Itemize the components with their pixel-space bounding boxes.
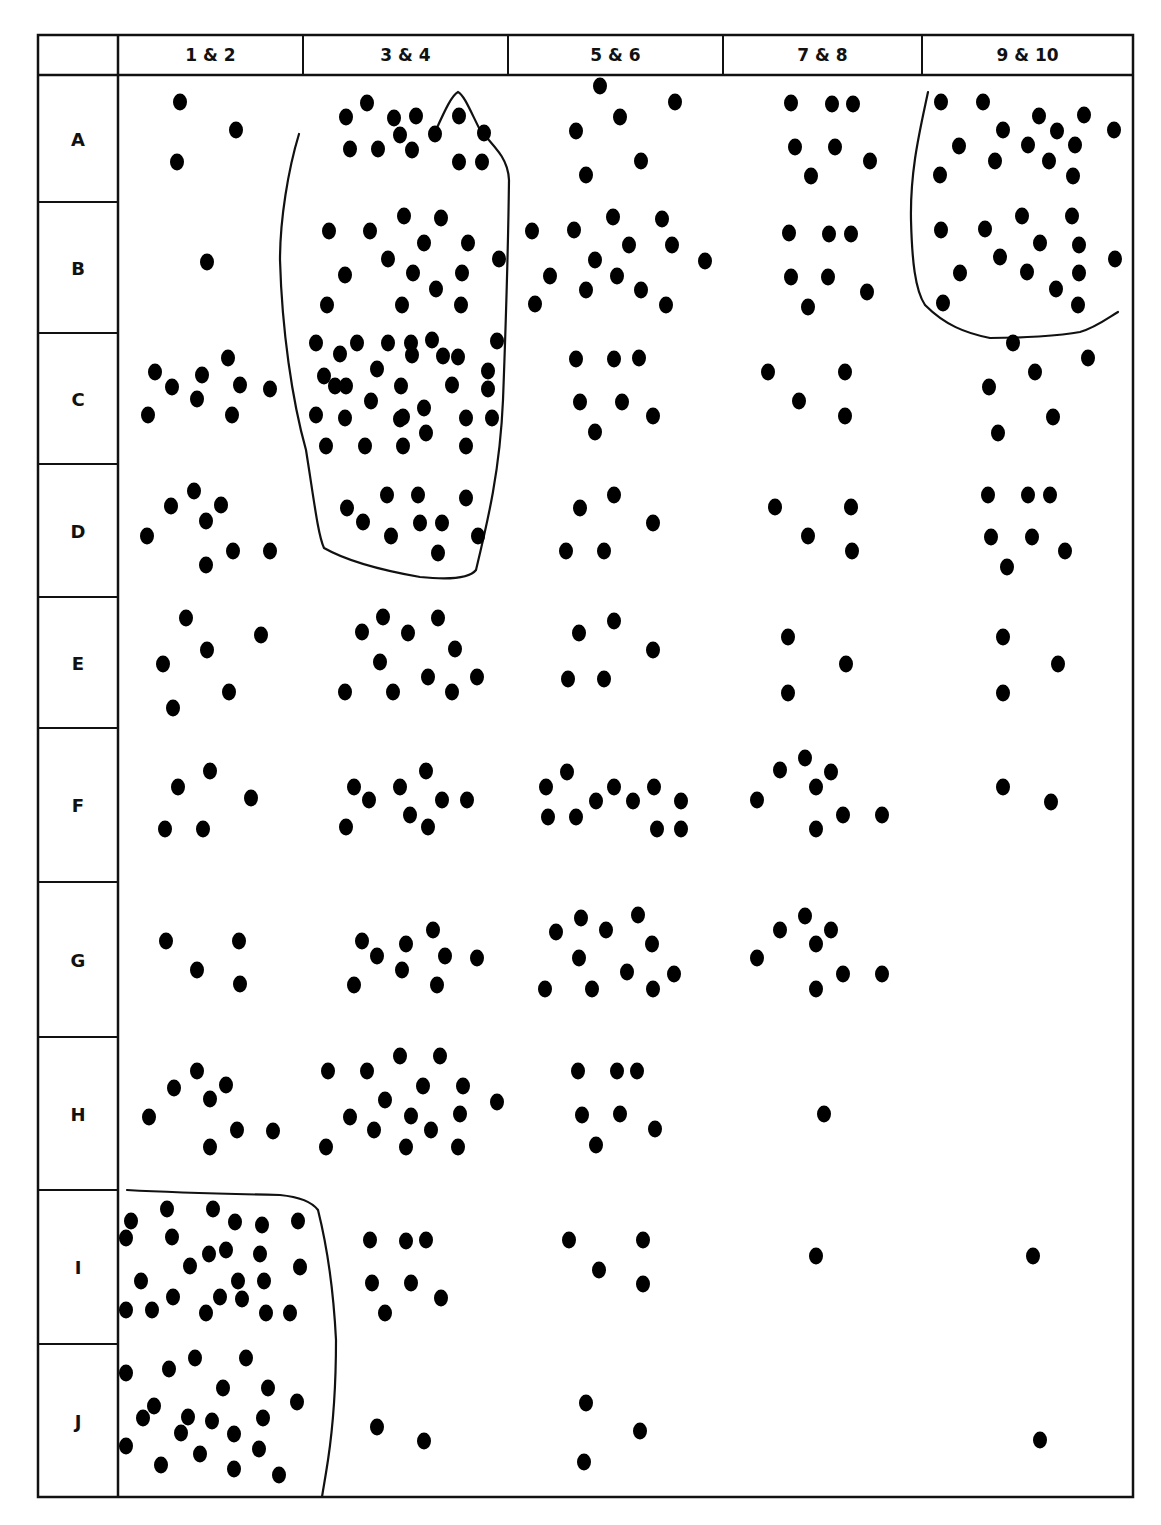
dot	[667, 966, 681, 983]
dot	[360, 95, 374, 112]
dot	[528, 296, 542, 313]
dot	[228, 1214, 242, 1231]
dot	[698, 253, 712, 270]
table-frame	[38, 35, 1133, 1497]
dot	[773, 762, 787, 779]
dot	[575, 1107, 589, 1124]
dot	[1028, 364, 1042, 381]
dot	[454, 297, 468, 314]
dot	[148, 364, 162, 381]
dot	[263, 543, 277, 560]
dot	[1107, 122, 1121, 139]
cluster-boundaries	[127, 92, 1118, 1497]
dot	[261, 1380, 275, 1397]
dot	[798, 908, 812, 925]
dot	[134, 1273, 148, 1290]
dot	[203, 1139, 217, 1156]
dot	[607, 351, 621, 368]
dot	[340, 500, 354, 517]
dot	[396, 409, 410, 426]
dot	[996, 629, 1010, 646]
dot	[579, 1395, 593, 1412]
dot	[219, 1077, 233, 1094]
dot	[425, 332, 439, 349]
dot	[328, 378, 342, 395]
dot	[399, 936, 413, 953]
dot	[573, 500, 587, 517]
dot	[822, 226, 836, 243]
dot	[373, 654, 387, 671]
dot	[147, 1398, 161, 1415]
dot	[166, 1289, 180, 1306]
dot	[610, 268, 624, 285]
dot	[355, 933, 369, 950]
dot	[569, 809, 583, 826]
dot	[409, 108, 423, 125]
dot	[933, 167, 947, 184]
column-header: 9 & 10	[996, 45, 1058, 65]
dot	[647, 779, 661, 796]
dot	[996, 122, 1010, 139]
dot	[272, 1467, 286, 1484]
dot	[577, 1454, 591, 1471]
dot	[190, 1063, 204, 1080]
dot	[426, 922, 440, 939]
dot	[252, 1441, 266, 1458]
dot	[634, 153, 648, 170]
dot	[768, 499, 782, 516]
dot	[371, 141, 385, 158]
dot	[860, 284, 874, 301]
dot	[631, 907, 645, 924]
dot	[404, 1275, 418, 1292]
row-label: H	[70, 1104, 85, 1125]
dot	[419, 425, 433, 442]
dot	[573, 394, 587, 411]
dot	[560, 764, 574, 781]
dot	[613, 1106, 627, 1123]
dot	[320, 297, 334, 314]
dot	[839, 656, 853, 673]
dot	[1021, 137, 1035, 154]
dot	[395, 297, 409, 314]
dot	[338, 267, 352, 284]
dot	[784, 269, 798, 286]
dot	[1050, 123, 1064, 140]
dot	[588, 424, 602, 441]
dot	[364, 393, 378, 410]
row-label: G	[71, 950, 86, 971]
dot	[838, 364, 852, 381]
dot	[136, 1410, 150, 1427]
dot	[200, 642, 214, 659]
dot	[455, 265, 469, 282]
dot	[319, 438, 333, 455]
dot	[571, 1063, 585, 1080]
dot	[438, 948, 452, 965]
dot	[158, 821, 172, 838]
dot	[674, 821, 688, 838]
dot	[750, 950, 764, 967]
dot	[387, 110, 401, 127]
dot	[452, 108, 466, 125]
dot	[585, 981, 599, 998]
dot	[380, 487, 394, 504]
dot	[844, 499, 858, 516]
dot	[370, 948, 384, 965]
dot	[227, 1426, 241, 1443]
dot	[452, 154, 466, 171]
dot	[773, 922, 787, 939]
dot	[809, 821, 823, 838]
dot	[804, 168, 818, 185]
dot	[119, 1302, 133, 1319]
dot	[221, 350, 235, 367]
dot	[620, 964, 634, 981]
dot	[622, 237, 636, 254]
dot	[1046, 409, 1060, 426]
dot	[750, 792, 764, 809]
row-label: D	[71, 521, 86, 542]
dot	[1108, 251, 1122, 268]
dot	[319, 1139, 333, 1156]
dot	[825, 96, 839, 113]
dot	[397, 208, 411, 225]
dot	[597, 543, 611, 560]
dot	[984, 529, 998, 546]
